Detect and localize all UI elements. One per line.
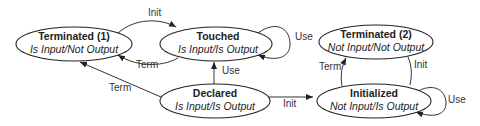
node-subtitle: Is Input/Is Output — [178, 43, 259, 55]
node-subtitle: Is Input/Is Output — [175, 100, 256, 112]
edge-t2-to-initialized — [408, 57, 411, 85]
node-subtitle: Is Input/Not Output — [30, 43, 119, 55]
edge-initialized-to-t2 — [341, 58, 346, 86]
node-terminated-1: Terminated (1) Is Input/Not Output — [16, 27, 132, 61]
label-init-declared-initialized: Init — [283, 98, 297, 109]
node-initialized: Initialized Not Input/Is Output — [317, 84, 431, 118]
node-terminated-2: Terminated (2) Not Input/Not Output — [319, 25, 433, 59]
node-declared: Declared Is Input/Is Output — [160, 84, 270, 118]
label-use-touched-self: Use — [295, 31, 313, 42]
node-subtitle: Not Input/Not Output — [328, 41, 425, 53]
node-title: Initialized — [350, 87, 398, 99]
label-term-touched-t1: Term — [136, 59, 158, 70]
edge-t1-to-touched — [118, 21, 176, 33]
label-init-t1-touched: Init — [148, 7, 162, 18]
node-touched: Touched Is Input/Is Output — [160, 27, 272, 61]
node-title: Touched — [197, 30, 240, 42]
label-term-declared-t1: Term — [109, 82, 131, 93]
label-use-initialized-self: Use — [448, 94, 466, 105]
node-subtitle: Not Input/Is Output — [330, 100, 419, 112]
label-init-t2-initialized: Init — [414, 59, 428, 70]
node-title: Declared — [193, 87, 237, 99]
label-use-declared-touched: Use — [222, 65, 240, 76]
state-diagram: Init Term Use Use Term Init Term Init Us… — [0, 0, 480, 126]
label-term-initialized-t2: Term — [319, 61, 341, 72]
node-title: Terminated (1) — [38, 30, 110, 42]
node-title: Terminated (2) — [340, 28, 412, 40]
